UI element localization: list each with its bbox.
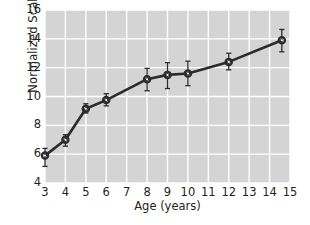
x-tick-14: 14 (260, 185, 280, 199)
x-tick-5: 5 (76, 185, 96, 199)
x-tick-3: 3 (35, 185, 55, 199)
x-tick-6: 6 (96, 185, 116, 199)
x-tick-15: 15 (280, 185, 300, 199)
x-axis-label: Age (years) (45, 199, 290, 213)
x-tick-11: 11 (198, 185, 218, 199)
x-tick-12: 12 (219, 185, 239, 199)
chart-figure: Normalized Scaled Score 16141210864 3456… (0, 0, 310, 225)
x-tick-13: 13 (239, 185, 259, 199)
x-tick-4: 4 (55, 185, 75, 199)
x-tick-7: 7 (117, 185, 137, 199)
x-tick-8: 8 (137, 185, 157, 199)
x-tick-9: 9 (158, 185, 178, 199)
x-tick-10: 10 (178, 185, 198, 199)
